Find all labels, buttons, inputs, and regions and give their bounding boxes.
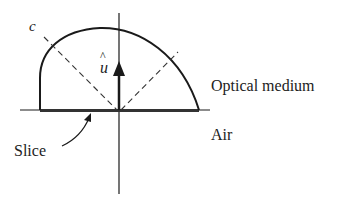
slice-label: Slice [14, 142, 46, 159]
slice-pointer-arrow [62, 118, 89, 146]
vector-u-arrowhead [113, 61, 125, 76]
vector-label: u [100, 59, 108, 76]
region-label-air: Air [211, 126, 233, 143]
region-label-optical-medium: Optical medium [211, 77, 315, 95]
diagram-canvas: c ^ u Optical medium Air Slice [0, 0, 363, 204]
curve-label: c [29, 18, 36, 34]
slice-pointer-arrowhead [84, 113, 91, 122]
dashed-line-right [121, 52, 178, 110]
